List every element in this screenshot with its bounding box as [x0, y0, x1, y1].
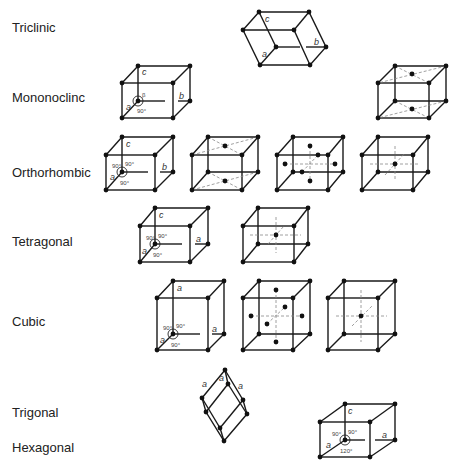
- svg-text:90°: 90°: [171, 342, 181, 348]
- svg-text:90°: 90°: [153, 252, 163, 258]
- cell-monoclinic-c: [376, 64, 449, 121]
- cell-tetragonal-i: [241, 206, 311, 265]
- svg-text:a: a: [238, 381, 243, 391]
- svg-text:a: a: [219, 373, 224, 383]
- svg-text:90°: 90°: [120, 180, 130, 186]
- svg-text:a: a: [212, 324, 217, 334]
- svg-text:a: a: [382, 430, 387, 440]
- cell-orthorhombic-f: [275, 135, 346, 193]
- svg-text:a: a: [126, 102, 131, 112]
- cell-cubic-f: [241, 279, 313, 353]
- svg-text:c: c: [142, 67, 147, 77]
- svg-text:a: a: [326, 440, 331, 450]
- cell-hexagonal-p: caa 90°90°120°: [318, 402, 398, 460]
- bravais-lattice-diagram: cab cab β90° cab 90: [0, 0, 462, 469]
- svg-text:90°: 90°: [112, 163, 122, 169]
- svg-text:c: c: [265, 14, 270, 24]
- cell-trigonal-r: aaa: [200, 368, 250, 444]
- svg-text:90°: 90°: [163, 325, 173, 331]
- cell-triclinic-p: cab: [241, 10, 329, 68]
- cell-tetragonal-p: caa 90°90°90°: [138, 206, 211, 265]
- svg-text:β: β: [142, 92, 146, 98]
- cell-cubic-p: aaa 90°90°90°: [155, 279, 227, 353]
- cell-orthorhombic-i: [360, 135, 431, 193]
- cell-orthorhombic-p: cab 90°90°90°: [104, 135, 176, 193]
- svg-text:b: b: [162, 162, 167, 172]
- svg-text:a: a: [160, 335, 165, 345]
- cell-orthorhombic-c: [190, 135, 261, 193]
- svg-text:a: a: [177, 283, 182, 293]
- svg-text:c: c: [348, 406, 353, 416]
- svg-text:90°: 90°: [137, 108, 147, 114]
- svg-text:a: a: [262, 49, 267, 59]
- svg-text:a: a: [142, 246, 147, 256]
- cell-cubic-i: [326, 279, 398, 353]
- svg-text:a: a: [202, 379, 207, 389]
- svg-text:a: a: [196, 234, 201, 244]
- svg-text:90°: 90°: [146, 235, 156, 241]
- svg-text:b: b: [314, 37, 319, 47]
- svg-text:c: c: [159, 210, 164, 220]
- svg-text:90°: 90°: [332, 431, 342, 437]
- svg-text:90°: 90°: [348, 429, 358, 435]
- svg-text:90°: 90°: [125, 161, 135, 167]
- svg-text:b: b: [179, 91, 184, 101]
- svg-text:90°: 90°: [158, 233, 168, 239]
- svg-text:c: c: [126, 139, 131, 149]
- svg-text:90°: 90°: [176, 323, 186, 329]
- svg-text:a: a: [110, 172, 115, 182]
- svg-text:120°: 120°: [340, 448, 353, 454]
- cell-monoclinic-p: cab β90°: [120, 64, 193, 121]
